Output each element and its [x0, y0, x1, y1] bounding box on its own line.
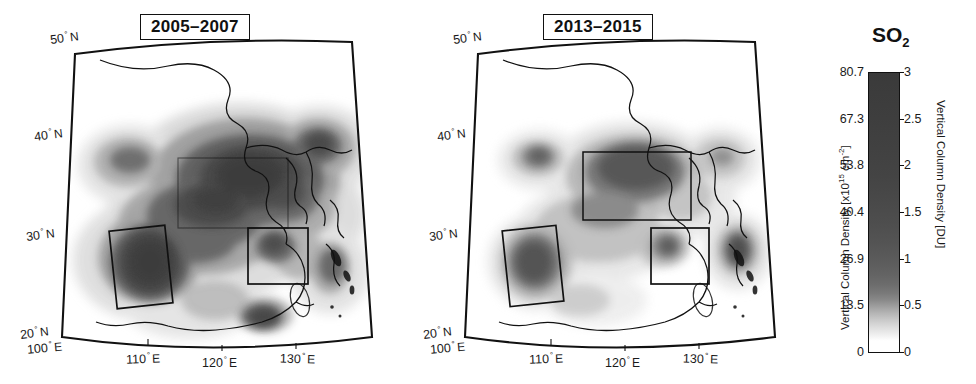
- lon-label-100-left: 100°E: [26, 339, 62, 356]
- lon-label-110-right: 110°E: [529, 351, 564, 366]
- colorbar-right-tick-2: 2: [904, 159, 911, 172]
- lon-label-100-right: 100°E: [429, 339, 465, 356]
- colorbar-tickmark: [900, 72, 904, 73]
- colorbar-right-tick-3: 1.5: [904, 206, 921, 219]
- colorbar-title: SO2: [872, 24, 910, 49]
- map-panel-2005-2007: 2005–2007: [0, 0, 420, 384]
- colorbar-left-tick-6: 0: [857, 346, 864, 359]
- colorbar-axis-title-right: Vertical Column Density [DU]: [935, 100, 947, 248]
- colorbar-right-tick-1: 2.5: [904, 113, 921, 126]
- lon-label-120-left: 120°E: [202, 356, 237, 370]
- colorbar-tickmark: [900, 119, 904, 120]
- colorbar-right-tick-4: 1: [904, 253, 911, 266]
- colorbar-left-tick-1: 67.3: [840, 113, 864, 126]
- colorbar-right-tick-6: 0: [904, 346, 911, 359]
- map-plot-right: [420, 0, 820, 384]
- lon-label-110-left: 110°E: [126, 351, 161, 366]
- colorbar-gradient: [868, 72, 900, 353]
- lon-label-130-right: 130°E: [683, 351, 719, 366]
- species-label: SO: [872, 23, 902, 46]
- colorbar-tickmark: [900, 305, 904, 306]
- panel-title-left: 2005–2007: [140, 14, 250, 40]
- colorbar-right-tick-0: 3: [904, 66, 911, 79]
- colorbar-left-tick-0: 80.7: [840, 66, 864, 79]
- panel-title-right: 2013–2015: [543, 14, 653, 40]
- colorbar-group: SO2 80.7 67.3 53.8 40.4 26.9 13.5 0 3 2.…: [820, 0, 976, 384]
- map-panel-2013-2015: 2013–2015: [420, 0, 820, 384]
- colorbar-right-tick-5: 0.5: [904, 299, 921, 312]
- colorbar-tickmark: [900, 259, 904, 260]
- colorbar-tickmark: [900, 352, 904, 353]
- colorbar-tickmark: [900, 165, 904, 166]
- lon-label-130-left: 130°E: [280, 351, 316, 366]
- lon-label-120-right: 120°E: [605, 356, 640, 370]
- map-plot-left: [0, 0, 420, 384]
- colorbar-axis-title-left: Vertical Column Density [x1015 cm-2]: [838, 145, 851, 330]
- species-subscript: 2: [902, 35, 909, 50]
- colorbar-tickmark: [900, 212, 904, 213]
- so2-comparison-figure: 2005–2007: [0, 0, 976, 384]
